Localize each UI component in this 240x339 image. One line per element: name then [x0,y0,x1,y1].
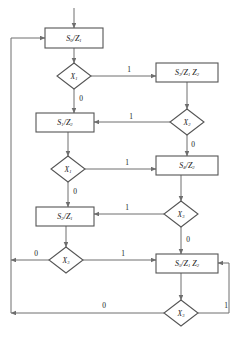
edge-label-x3a-0: 0 [186,235,190,244]
edge-label-x3a-1: 1 [125,203,129,212]
state-label-s3: S3/Z1 Z2 [175,68,200,77]
edge-label-x1b-1: 1 [125,158,129,167]
edge-leftbus-to-s0 [11,38,45,313]
edge-label-x3b-0: 0 [34,249,38,258]
edge-label-x3c-1: 1 [224,301,228,310]
edge-label-x3b-1: 1 [121,249,125,258]
edge-label-x3c-0: 0 [102,301,106,310]
edge-label-x1a-0: 0 [79,94,83,103]
asm-flowchart: S0/Z1 S3/Z1 Z2 S1/Z2 S4/Z2 S2/Z1 S5/Z1 Z… [0,0,240,339]
edge-label-x2-1: 1 [129,112,133,121]
decision-label-layer: X1 X2 X1 X3 X3 X3 [62,72,192,318]
state-label-s5: S5/Z1 Z2 [175,259,200,268]
edge-label-x1a-1: 1 [127,65,131,74]
asm-diagram-canvas: S0/Z1 S3/Z1 Z2 S1/Z2 S4/Z2 S2/Z1 S5/Z1 Z… [0,0,240,339]
edge-label-x2-0: 0 [191,140,195,149]
edge-label-x1b-0: 0 [73,187,77,196]
